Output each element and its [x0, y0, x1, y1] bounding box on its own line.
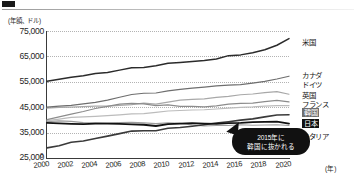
legend-item-korea[interactable]: 韓国 — [302, 108, 319, 117]
y-axis-ticks: 75,000 65,000 55,000 45,000 35,000 25,00… — [0, 0, 44, 179]
y-tick-55000: 55,000 — [20, 76, 45, 86]
legend: 米国 カナダ ドイツ 英国 フランス 韓国 日本 イタリア — [296, 0, 357, 179]
line-usa — [47, 39, 289, 82]
legend-item-usa[interactable]: 米国 — [302, 36, 315, 47]
korea-overtake-callout: 2015年に 韓国に抜かれる — [232, 128, 310, 155]
legend-item-germany[interactable]: ドイツ — [302, 78, 322, 89]
x-tick-2002: 2002 — [57, 159, 74, 170]
x-tick-2008: 2008 — [129, 159, 146, 170]
origin-zero-label: 0 — [40, 152, 44, 159]
x-tick-2006: 2006 — [105, 159, 122, 170]
y-tick-45000: 45,000 — [20, 102, 45, 112]
x-tick-2014: 2014 — [202, 159, 219, 170]
callout-line-2: 韓国に抜かれる — [247, 142, 295, 151]
x-tick-2018: 2018 — [250, 159, 267, 170]
x-tick-2004: 2004 — [81, 159, 98, 170]
chart-figure: (年額、ドル) 75,000 65,000 55,000 45,000 35,0… — [0, 0, 357, 179]
x-tick-2020: 2020 — [275, 159, 292, 170]
legend-item-japan[interactable]: 日本 — [302, 119, 319, 128]
x-tick-2010: 2010 — [153, 159, 170, 170]
x-tick-2012: 2012 — [178, 159, 195, 170]
y-tick-75000: 75,000 — [20, 26, 45, 36]
x-tick-2016: 2016 — [226, 159, 243, 170]
line-germany — [47, 92, 289, 109]
y-tick-65000: 65,000 — [20, 51, 45, 61]
x-tick-2000: 2000 — [33, 159, 50, 170]
callout-line-1: 2015年に — [257, 133, 284, 142]
y-tick-35000: 35,000 — [20, 127, 45, 137]
